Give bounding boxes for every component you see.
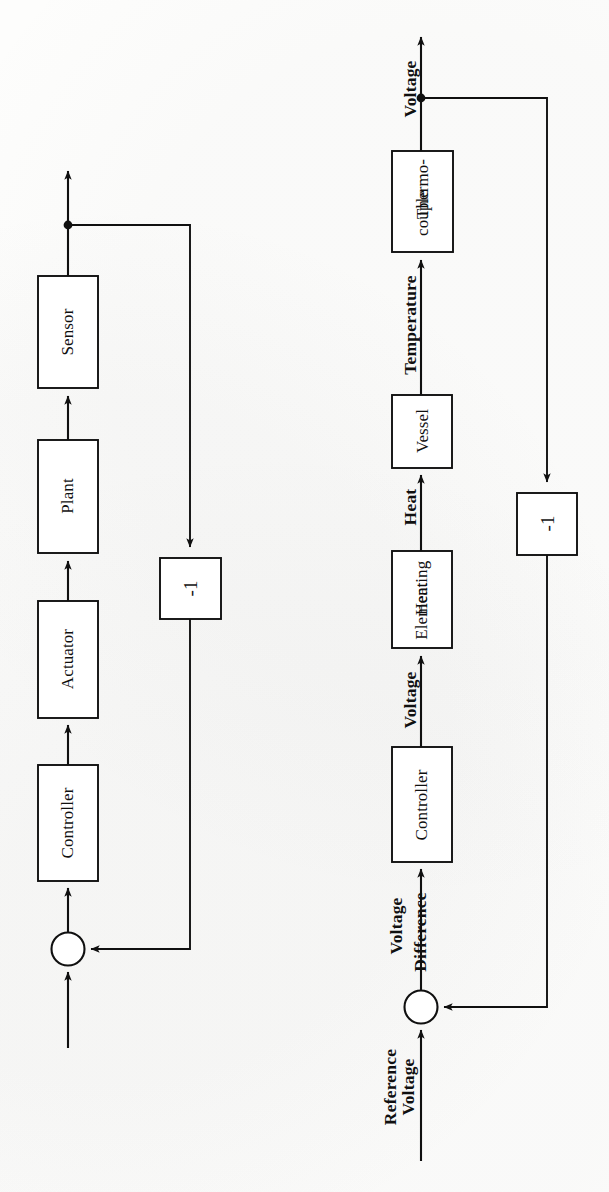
left-summing-junction <box>52 933 85 966</box>
scanned-figure-page: Controller Actuator Plant Sensor -1 Cont… <box>0 0 609 1192</box>
right-diagram-group <box>392 37 577 1161</box>
right-summing-junction <box>405 991 438 1024</box>
generic-feedback-loop-lines <box>0 0 609 1192</box>
left-diagram-group <box>38 171 221 1048</box>
